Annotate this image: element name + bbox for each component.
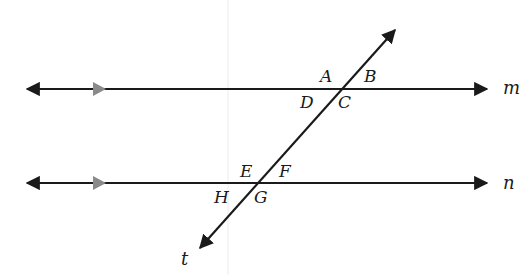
angle-label-a: A	[318, 66, 332, 86]
parallel-marker-icon	[93, 82, 106, 96]
parallel-marker-icon	[93, 176, 106, 190]
angle-label-g: G	[254, 187, 268, 207]
angle-label-b: B	[363, 66, 377, 86]
angle-label-e: E	[239, 161, 253, 181]
label-line-m: m	[503, 77, 520, 98]
angle-label-d: D	[299, 92, 314, 112]
angle-label-h: H	[213, 187, 230, 207]
angle-label-c: C	[338, 92, 351, 112]
parallel-lines-diagram: m n t A B C D E F G H	[0, 0, 531, 275]
angle-label-f: F	[278, 161, 292, 181]
line-m	[27, 82, 487, 96]
transversal-t	[200, 30, 395, 248]
label-line-t: t	[181, 248, 189, 269]
label-line-n: n	[503, 172, 515, 193]
